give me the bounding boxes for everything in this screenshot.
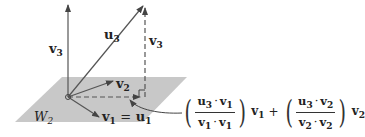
label-u3: u3 [104,28,120,44]
label-v3-right: v3 [149,34,163,50]
projection-formula: ( u3·v1 v1·v1 ) v1 + ( u3·v2 v2·v2 ) v2 [182,95,365,129]
label-v1-eq-u1: v1 = u1 [102,110,152,126]
label-v2: v2 [116,77,130,93]
label-v3-left: v3 [49,42,63,58]
fraction-term2: u3·v2 v2·v2 [296,94,335,131]
label-w2: W2 [34,110,53,126]
fraction-term1: u3·v1 v1·v1 [195,94,234,131]
